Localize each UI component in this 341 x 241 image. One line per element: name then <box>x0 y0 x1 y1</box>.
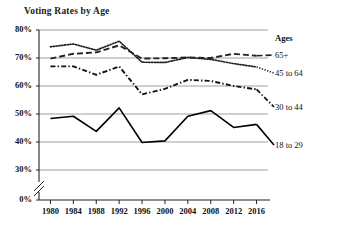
x-axis-tick-label: 2016 <box>237 206 277 216</box>
voting-rates-chart: Voting Rates by Age 80%70%60%50%40%30%0%… <box>0 0 341 241</box>
series-line-18-to-29 <box>50 108 256 143</box>
y-axis-tick-label: 40% <box>2 136 32 146</box>
legend-item-30-to-44: 30 to 44 <box>275 102 303 112</box>
legend-item-65+: 65+ <box>275 50 288 60</box>
series-line-65+ <box>50 45 256 58</box>
y-axis-tick-label: 0% <box>2 194 32 204</box>
legend-item-45-to-64: 45 to 64 <box>275 68 303 78</box>
y-axis-tick-label: 80% <box>2 24 32 34</box>
legend-leader-45-to-64 <box>257 67 274 73</box>
y-axis-tick-label: 50% <box>2 108 32 118</box>
legend-leader-65+ <box>257 55 274 56</box>
legend-leader-30-to-44 <box>257 89 274 107</box>
y-axis-tick-label: 60% <box>2 80 32 90</box>
y-axis-tick-label: 70% <box>2 52 32 62</box>
legend-title: Ages <box>275 33 292 43</box>
series-line-30-to-44 <box>50 66 256 94</box>
axis-break-mark <box>34 181 44 191</box>
y-axis-tick-label: 30% <box>2 164 32 174</box>
legend-item-18-to-29: 18 to 29 <box>275 140 303 150</box>
